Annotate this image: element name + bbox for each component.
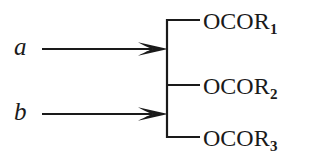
- reagent-label-a: a: [14, 34, 27, 59]
- product-bracket: [166, 19, 200, 138]
- reagent-label-b: b: [14, 99, 27, 124]
- product-label-3: OCOR3: [203, 126, 277, 154]
- product-label-2: OCOR2: [203, 74, 277, 102]
- arrow-b: [42, 107, 168, 121]
- product-label-1: OCOR1: [203, 9, 277, 37]
- product-1-base: OCOR: [203, 8, 270, 34]
- arrow-a: [42, 42, 168, 56]
- product-1-subscript: 1: [270, 21, 278, 37]
- product-2-subscript: 2: [270, 86, 278, 102]
- product-3-subscript: 3: [270, 138, 278, 154]
- reaction-scheme-figure: a b OCOR1 OCOR2 OCOR3: [0, 0, 321, 164]
- product-2-base: OCOR: [203, 73, 270, 99]
- product-3-base: OCOR: [203, 125, 270, 151]
